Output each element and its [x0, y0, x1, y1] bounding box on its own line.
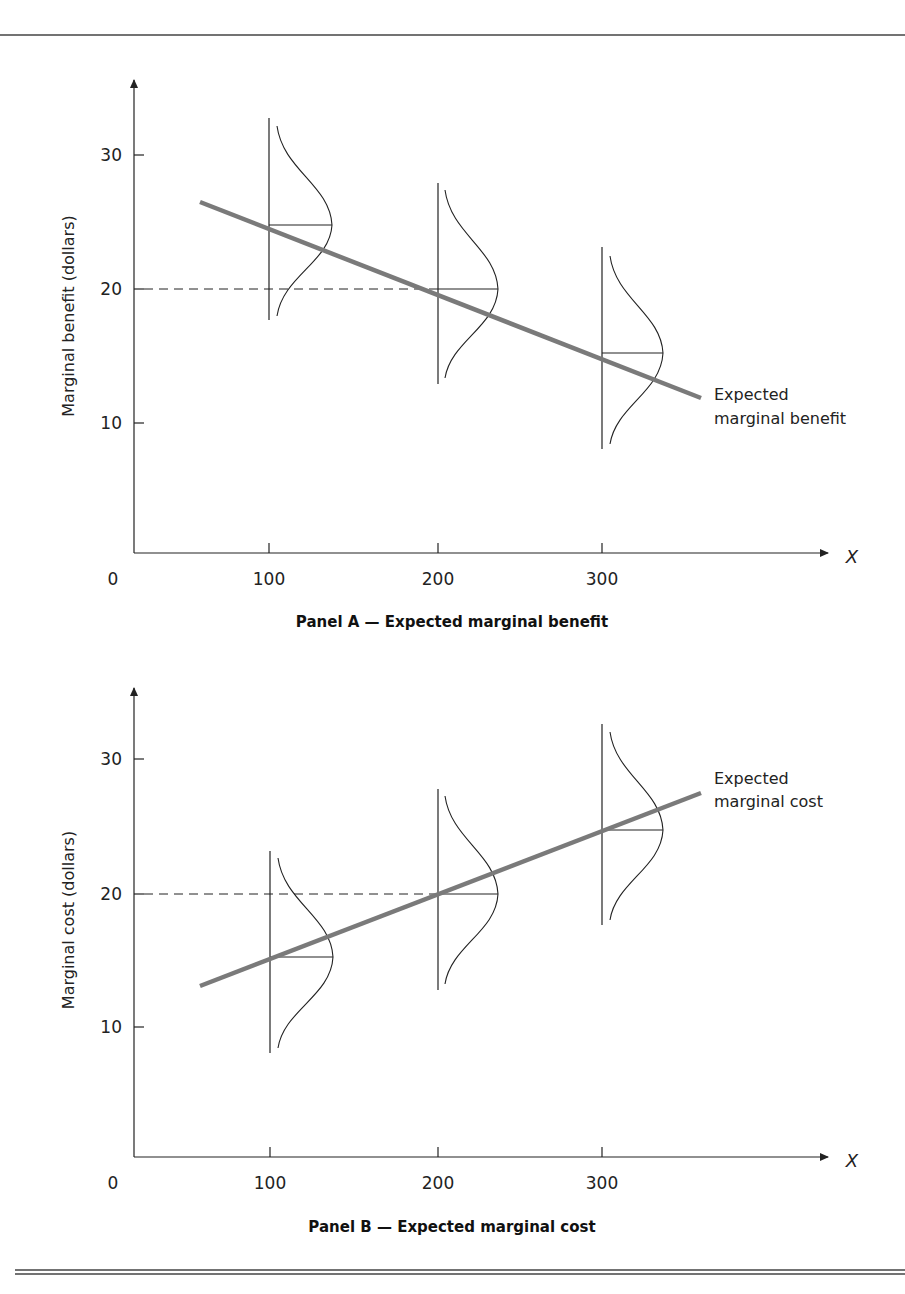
- panel-b-curve-label-line2: marginal cost: [714, 792, 823, 811]
- panel-a-y-tick-label-30: 30: [100, 145, 122, 165]
- panel-b-y-tick-label-10: 10: [100, 1017, 122, 1037]
- panel-b-y-tick-label-20: 20: [100, 884, 122, 904]
- panel-a: 30 20 10 0 100 200 300 X Marginal benefi…: [59, 80, 859, 631]
- panel-b-curve-label-line1: Expected: [714, 769, 789, 788]
- panel-b-origin-label: 0: [108, 1173, 119, 1193]
- panel-a-expected-marginal-benefit-line: [200, 202, 701, 398]
- panel-a-x-axis-label: X: [845, 546, 859, 567]
- panel-b-x-axis-label: X: [845, 1150, 859, 1171]
- panel-b-y-axis-title: Marginal cost (dollars): [59, 831, 78, 1009]
- panel-b-expected-marginal-cost-line: [200, 793, 701, 986]
- panel-a-dist-curve-300: [610, 256, 663, 444]
- panel-a-dist-curve-100: [277, 126, 332, 316]
- panel-a-caption: Panel A — Expected marginal benefit: [296, 613, 608, 631]
- panel-a-x-tick-label-100: 100: [253, 569, 285, 589]
- panel-b-y-tick-label-30: 30: [100, 749, 122, 769]
- panel-a-y-axis-title: Marginal benefit (dollars): [59, 215, 78, 416]
- panel-a-dist-curve-200: [445, 190, 498, 378]
- panel-a-x-tick-label-200: 200: [422, 569, 454, 589]
- panel-a-x-tick-label-300: 300: [586, 569, 618, 589]
- panel-b-x-tick-label-100: 100: [254, 1173, 286, 1193]
- panel-a-origin-label: 0: [108, 569, 119, 589]
- panel-b: 30 20 10 0 100 200 300 X Marginal cost (…: [59, 688, 859, 1236]
- panel-a-curve-label-line1: Expected: [714, 385, 789, 404]
- panel-b-x-tick-label-200: 200: [422, 1173, 454, 1193]
- panel-b-caption: Panel B — Expected marginal cost: [308, 1218, 595, 1236]
- panel-b-x-tick-label-300: 300: [586, 1173, 618, 1193]
- panel-a-y-tick-label-20: 20: [100, 279, 122, 299]
- figure-canvas: 30 20 10 0 100 200 300 X Marginal benefi…: [0, 0, 905, 1294]
- panel-a-y-tick-label-10: 10: [100, 413, 122, 433]
- panel-a-curve-label-line2: marginal benefit: [714, 409, 846, 428]
